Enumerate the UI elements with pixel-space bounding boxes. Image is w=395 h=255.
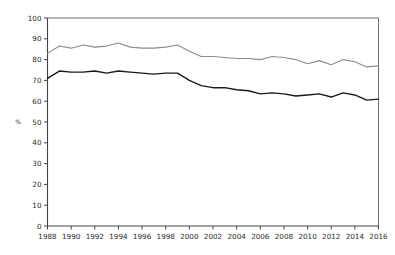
series-line-lower-series — [48, 71, 379, 100]
x-tick-label: 2006 — [251, 232, 270, 241]
chart-axes — [48, 18, 379, 226]
y-tick-label: 40 — [32, 138, 42, 147]
y-tick-label: 100 — [28, 14, 42, 23]
x-tick-label: 2012 — [322, 232, 340, 241]
line-chart: 0102030405060708090100%19881990199219941… — [0, 0, 395, 255]
y-tick-label: 80 — [32, 55, 42, 64]
x-tick-label: 1994 — [109, 232, 128, 241]
x-tick-label: 2002 — [204, 232, 222, 241]
x-tick-label: 2008 — [275, 232, 294, 241]
series-line-upper-series — [48, 43, 379, 67]
chart-frame — [48, 18, 379, 226]
x-tick-label: 2004 — [227, 232, 246, 241]
y-axis-label: % — [15, 118, 21, 125]
x-tick-label: 1996 — [133, 232, 152, 241]
x-tick-label: 1990 — [62, 232, 81, 241]
y-tick-label: 60 — [32, 97, 42, 106]
x-tick-label: 2010 — [298, 232, 317, 241]
x-tick-label: 2016 — [369, 232, 388, 241]
chart-canvas: 0102030405060708090100%19881990199219941… — [0, 0, 395, 255]
x-tick-label: 1998 — [157, 232, 176, 241]
x-tick-label: 1992 — [86, 232, 104, 241]
x-tick-label: 2014 — [346, 232, 365, 241]
y-tick-label: 50 — [32, 118, 42, 127]
y-tick-label: 90 — [32, 34, 42, 43]
y-tick-label: 30 — [32, 159, 42, 168]
x-tick-label: 2000 — [180, 232, 199, 241]
y-tick-label: 70 — [32, 76, 42, 85]
y-tick-label: 20 — [32, 180, 42, 189]
x-tick-label: 1988 — [38, 232, 57, 241]
y-tick-label: 0 — [37, 222, 42, 231]
y-tick-label: 10 — [32, 201, 42, 210]
